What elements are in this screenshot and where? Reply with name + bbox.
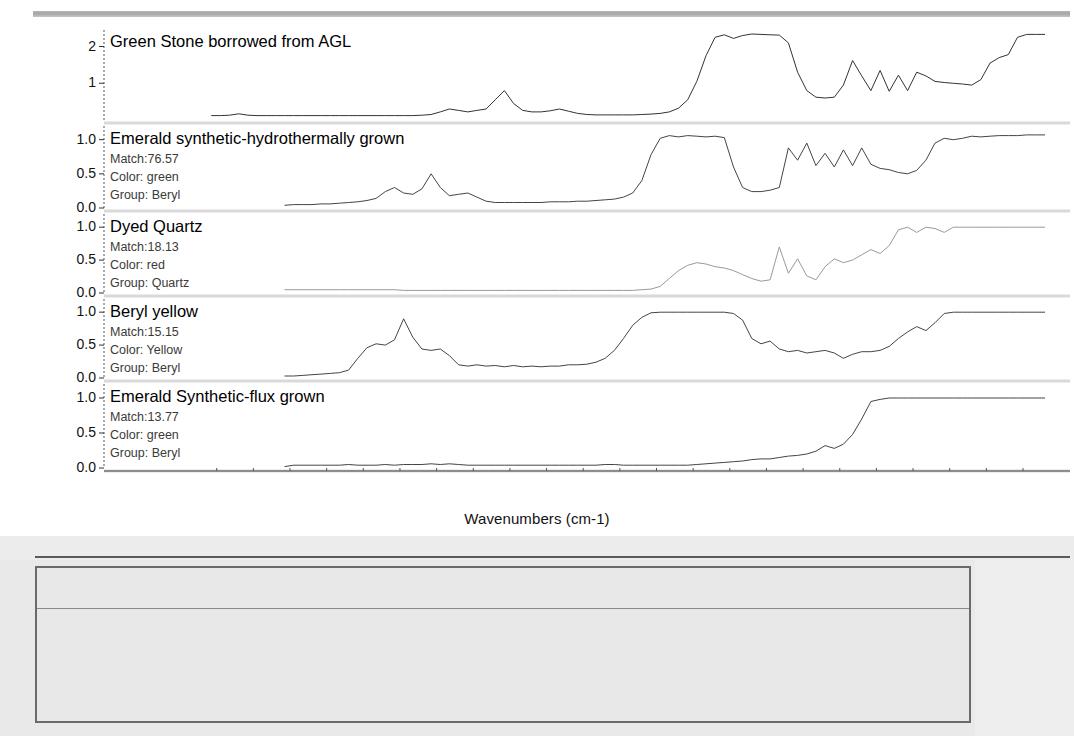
- spectrum-title[interactable]: Emerald Synthetic-flux grown: [110, 387, 325, 406]
- results-table[interactable]: [35, 566, 971, 723]
- y-axis-tick-label: 1.0: [50, 131, 96, 147]
- spectrum-meta-line: Group: Beryl: [110, 446, 180, 460]
- spectrum-meta-line: Group: Beryl: [110, 188, 180, 202]
- spectrum-meta-line: Match:13.77: [110, 410, 179, 424]
- y-axis-tick-label: 1.0: [50, 218, 96, 234]
- spectrum-title[interactable]: Beryl yellow: [110, 302, 198, 321]
- y-axis-tick-label: 1.0: [50, 303, 96, 319]
- toolbar-strip[interactable]: [33, 11, 1070, 17]
- y-axis-tick-label: 2: [50, 38, 96, 54]
- spectrum-meta-line: Group: Beryl: [110, 361, 180, 375]
- y-axis-tick-label: 0.0: [50, 199, 96, 215]
- y-axis-tick-label: 0.5: [50, 336, 96, 352]
- spectrum-title[interactable]: Dyed Quartz: [110, 217, 203, 236]
- y-axis-tick-label: 1: [50, 74, 96, 90]
- spectrum-meta-line: Match:76.57: [110, 152, 179, 166]
- spectrum-meta-line: Group: Quartz: [110, 276, 189, 290]
- y-axis-tick-label: 0.0: [50, 369, 96, 385]
- spectrum-meta-line: Color: Yellow: [110, 343, 182, 357]
- y-axis-tick-label: 0.5: [50, 251, 96, 267]
- y-axis-tick-label: 0.0: [50, 284, 96, 300]
- results-right-margin: [975, 560, 1074, 736]
- spectrum-trace: [285, 227, 1046, 290]
- spectrum-trace: [285, 398, 1046, 467]
- y-axis-tick-label: 1.0: [50, 389, 96, 405]
- spectrum-meta-line: Color: red: [110, 258, 165, 272]
- spectrum-meta-line: Match:18.13: [110, 240, 179, 254]
- spectrum-meta-line: Color: green: [110, 428, 179, 442]
- spectra-plot-panel[interactable]: 21Green Stone borrowed from AGL1.00.50.0…: [0, 28, 1074, 536]
- spectrum-title[interactable]: Emerald synthetic-hydrothermally grown: [110, 129, 404, 148]
- table-header-row: [37, 568, 969, 609]
- spectrum-meta-line: Match:15.15: [110, 325, 179, 339]
- y-axis-tick-label: 0.5: [50, 424, 96, 440]
- y-axis-tick-label: 0.5: [50, 165, 96, 181]
- y-axis-tick-label: 0.0: [50, 459, 96, 475]
- spectrum-trace: [285, 312, 1046, 376]
- x-axis-title: Wavenumbers (cm-1): [0, 510, 1074, 527]
- spectrum-meta-line: Color: green: [110, 170, 179, 184]
- divider-rule: [35, 556, 1070, 558]
- spectrum-title[interactable]: Green Stone borrowed from AGL: [110, 32, 351, 51]
